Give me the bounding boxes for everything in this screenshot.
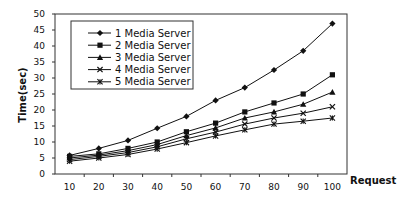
series-3	[67, 89, 336, 161]
x-tick-label: 20	[93, 182, 105, 192]
y-tick-label: 50	[34, 9, 46, 19]
diamond-marker-icon	[183, 113, 189, 119]
x-tick-label: 30	[122, 182, 134, 192]
y-tick-label: 0	[39, 169, 45, 179]
legend-label: 4 Media Server	[115, 64, 191, 75]
y-tick-label: 45	[34, 25, 45, 35]
diamond-marker-icon	[242, 85, 248, 91]
square-marker-icon	[97, 43, 102, 48]
x-tick-label: 90	[297, 182, 309, 192]
legend: 1 Media Server2 Media Server3 Media Serv…	[71, 21, 193, 89]
x-tick-label: 40	[151, 182, 163, 192]
diamond-marker-icon	[125, 137, 131, 143]
square-marker-icon	[330, 72, 335, 77]
x-tick-label: 80	[268, 182, 280, 192]
y-tick-label: 20	[34, 105, 46, 115]
y-tick-label: 25	[34, 89, 45, 99]
y-tick-label: 40	[34, 41, 46, 51]
series-5	[67, 115, 335, 163]
x-tick-label: 10	[64, 182, 76, 192]
x-tick-label: 100	[324, 182, 341, 192]
y-tick-label: 35	[34, 57, 45, 67]
square-marker-icon	[271, 100, 276, 105]
y-axis: 05101520253035404550	[34, 9, 55, 179]
square-marker-icon	[242, 109, 247, 114]
square-marker-icon	[301, 91, 306, 96]
diamond-marker-icon	[271, 67, 277, 73]
legend-label: 3 Media Server	[115, 52, 191, 63]
y-axis-title: Time(sec)	[17, 67, 28, 122]
legend-label: 5 Media Server	[115, 76, 191, 87]
series-line	[70, 92, 333, 158]
x-axis: 102030405060708090100	[64, 174, 341, 192]
diamond-marker-icon	[96, 145, 102, 151]
triangle-marker-icon	[329, 89, 335, 95]
x-tick-label: 70	[239, 182, 251, 192]
legend-label: 1 Media Server	[115, 28, 191, 39]
triangle-marker-icon	[300, 101, 306, 107]
diamond-marker-icon	[213, 97, 219, 103]
y-tick-label: 30	[34, 73, 46, 83]
legend-label: 2 Media Server	[115, 40, 191, 51]
x-tick-label: 50	[181, 182, 193, 192]
y-tick-label: 10	[34, 137, 46, 147]
y-tick-label: 15	[34, 121, 45, 131]
y-tick-label: 5	[39, 153, 45, 163]
x-axis-title: Request	[350, 175, 396, 186]
x-tick-label: 60	[210, 182, 222, 192]
diamond-marker-icon	[154, 125, 160, 131]
line-chart: 05101520253035404550 1020304050607080901…	[0, 0, 409, 203]
